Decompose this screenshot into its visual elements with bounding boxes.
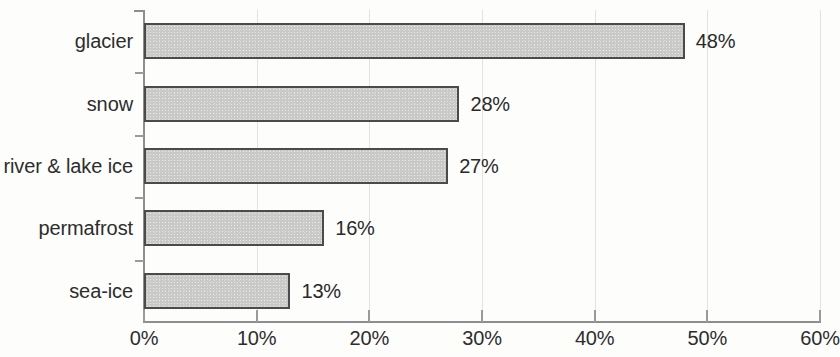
x-axis-tick-label: 40%: [575, 327, 614, 350]
category-label-sea-ice: sea-ice: [69, 279, 133, 302]
x-axis-tick: [594, 310, 596, 322]
category-label-permafrost: permafrost: [38, 217, 133, 240]
bar-value-label: 48%: [696, 30, 735, 53]
x-axis-tick-label: 0%: [130, 327, 159, 350]
x-axis-tick: [143, 310, 145, 322]
category-label-river-lake-ice: river & lake ice: [3, 155, 133, 178]
bar[interactable]: [144, 210, 324, 246]
category-label-glacier: glacier: [75, 30, 133, 53]
bar-chart: 48%28%27%16%13% glaciersnowriver & lake …: [0, 0, 840, 357]
y-axis-tick: [135, 72, 144, 74]
bar[interactable]: [144, 86, 459, 122]
y-axis-tick: [135, 197, 144, 199]
x-axis-tick-label: 20%: [350, 327, 389, 350]
y-axis-tick: [135, 260, 144, 262]
x-axis-tick-label: 60%: [800, 327, 839, 350]
x-axis-tick: [256, 310, 258, 322]
x-axis-tick: [481, 310, 483, 322]
x-axis-tick-label: 50%: [688, 327, 727, 350]
bar-value-label: 16%: [335, 217, 374, 240]
bar[interactable]: [144, 273, 290, 309]
x-axis-tick: [819, 310, 821, 322]
bar-value-label: 13%: [301, 279, 340, 302]
x-axis-tick: [368, 310, 370, 322]
x-axis-tick: [706, 310, 708, 322]
x-axis-tick-label: 10%: [237, 327, 276, 350]
bar-value-label: 28%: [470, 92, 509, 115]
y-axis-top-cap: [134, 10, 144, 12]
bar-value-label: 27%: [459, 155, 498, 178]
bar[interactable]: [144, 23, 685, 59]
bar[interactable]: [144, 148, 448, 184]
x-axis-tick-label: 30%: [462, 327, 501, 350]
category-label-snow: snow: [87, 92, 133, 115]
y-axis-tick: [135, 135, 144, 137]
